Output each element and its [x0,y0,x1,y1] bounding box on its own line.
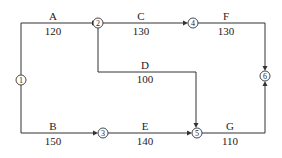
activity-d-duration: 100 [137,73,154,85]
arrowhead-g [263,81,268,86]
node-6: 6 [260,71,270,81]
activity-c-duration: 130 [133,25,150,37]
node-2-label: 2 [96,19,100,28]
node-5: 5 [192,128,202,138]
activity-d-name: D [141,59,149,71]
activity-b-duration: 150 [45,135,62,147]
node-4-label: 4 [191,19,195,28]
arrowhead-b [93,131,98,136]
node-3: 3 [98,128,108,138]
activity-g-name: G [226,120,234,132]
activity-f-name: F [223,10,229,22]
network-diagram: A 120 B 150 C 130 D 100 E 140 F 130 G 11… [0,0,282,158]
node-2: 2 [93,18,103,28]
arrowhead-f [263,66,268,71]
activity-f-duration: 130 [218,25,235,37]
activity-a-duration: 120 [45,25,62,37]
node-4: 4 [188,18,198,28]
activity-a-name: A [49,10,57,22]
activity-c-name: C [137,10,144,22]
arrowhead-e [187,131,192,136]
activity-g-duration: 110 [222,135,239,147]
arrowhead-d [194,123,199,128]
node-3-label: 3 [101,129,105,138]
activity-b-name: B [49,120,56,132]
activity-e-duration: 140 [137,135,154,147]
node-5-label: 5 [195,129,199,138]
node-6-label: 6 [263,72,267,81]
node-1: 1 [16,75,26,85]
activity-e-name: E [142,120,149,132]
node-1-label: 1 [19,76,23,85]
arrowhead-c [183,21,188,26]
edge-b [21,85,96,133]
